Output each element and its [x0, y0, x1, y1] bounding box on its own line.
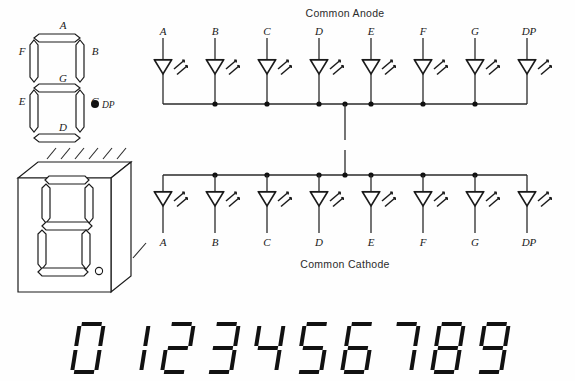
digit-1 — [139, 326, 150, 370]
common-anode-title: Common Anode — [306, 7, 385, 19]
common-anode-circuit — [154, 38, 552, 140]
cathode-bottom-leads — [163, 206, 527, 233]
anode-led-a — [154, 60, 188, 75]
cathode-led-d — [310, 192, 344, 207]
segment-label-dp: DP — [101, 100, 115, 110]
cathode-led-b — [206, 192, 240, 207]
segment-label-a: A — [59, 19, 67, 31]
digit-5 — [295, 322, 331, 374]
digit-8 — [430, 322, 466, 374]
segment-label-f: F — [18, 45, 26, 57]
cathode-led-e — [362, 192, 396, 207]
digit-3 — [209, 322, 241, 374]
cathode-led-g — [466, 192, 500, 207]
segment-label-c: C — [91, 95, 99, 107]
anode-pin-label-g: G — [471, 25, 479, 37]
anode-pin-label-b: B — [212, 25, 219, 37]
anode-bottom-leads — [163, 74, 527, 104]
cathode-pin-label-dp: DP — [521, 236, 537, 248]
digit-6 — [340, 322, 376, 374]
cathode-led-c — [258, 192, 292, 207]
cathode-pin-label-d: D — [314, 236, 323, 248]
anode-led-e — [362, 60, 396, 75]
figure-canvas: A F B G E C D DP Common Anode A B C D E … — [0, 0, 575, 381]
common-cathode-title: Common Cathode — [300, 258, 389, 270]
segment-label-g: G — [59, 72, 67, 84]
anode-top-leads — [163, 38, 527, 60]
digit-0 — [70, 322, 106, 374]
anode-led-g — [466, 60, 500, 75]
segment-label-d: D — [58, 121, 67, 133]
cathode-led-dp — [518, 192, 552, 207]
segment-label-b: B — [92, 45, 99, 57]
segment-f-shape — [30, 40, 38, 82]
anode-pin-label-d: D — [314, 25, 323, 37]
segment-c-shape — [76, 90, 84, 132]
anode-pin-label-f: F — [419, 25, 427, 37]
cathode-pin-label-c: C — [263, 236, 271, 248]
anode-pin-label-c: C — [263, 25, 271, 37]
cathode-pin-label-g: G — [471, 236, 479, 248]
segment-g-shape — [34, 84, 80, 92]
digit-9 — [475, 322, 511, 374]
anode-pin-label-dp: DP — [521, 25, 537, 37]
digit-row — [70, 322, 511, 374]
anode-led-d — [310, 60, 344, 75]
anode-led-f — [414, 60, 448, 75]
package-hatch-lines — [47, 148, 126, 159]
diagram-svg: A F B G E C D DP Common Anode A B C D E … — [0, 0, 575, 381]
segment-b-shape — [76, 40, 84, 82]
cathode-pin-label-e: E — [367, 236, 375, 248]
digit-2 — [160, 322, 196, 374]
segment-e-shape — [30, 90, 38, 132]
segment-d-shape — [34, 134, 80, 142]
package-leader-line — [133, 243, 146, 258]
cathode-pin-label-a: A — [159, 236, 167, 248]
package-isometric-figure — [18, 148, 146, 292]
anode-led-b — [206, 60, 240, 75]
package-right-face — [111, 162, 131, 292]
cathode-pin-label-f: F — [419, 236, 427, 248]
anode-led-c — [258, 60, 292, 75]
cathode-led-f — [414, 192, 448, 207]
anode-pin-label-a: A — [159, 25, 167, 37]
segment-a-shape — [34, 34, 80, 42]
common-cathode-circuit — [154, 150, 552, 233]
digit-7 — [389, 322, 421, 370]
cathode-led-a — [154, 192, 188, 207]
cathode-pin-label-b: B — [212, 236, 219, 248]
segment-label-e: E — [18, 95, 26, 107]
anode-led-dp — [518, 60, 552, 75]
anode-pin-label-e: E — [367, 25, 375, 37]
digit-4 — [250, 326, 285, 370]
